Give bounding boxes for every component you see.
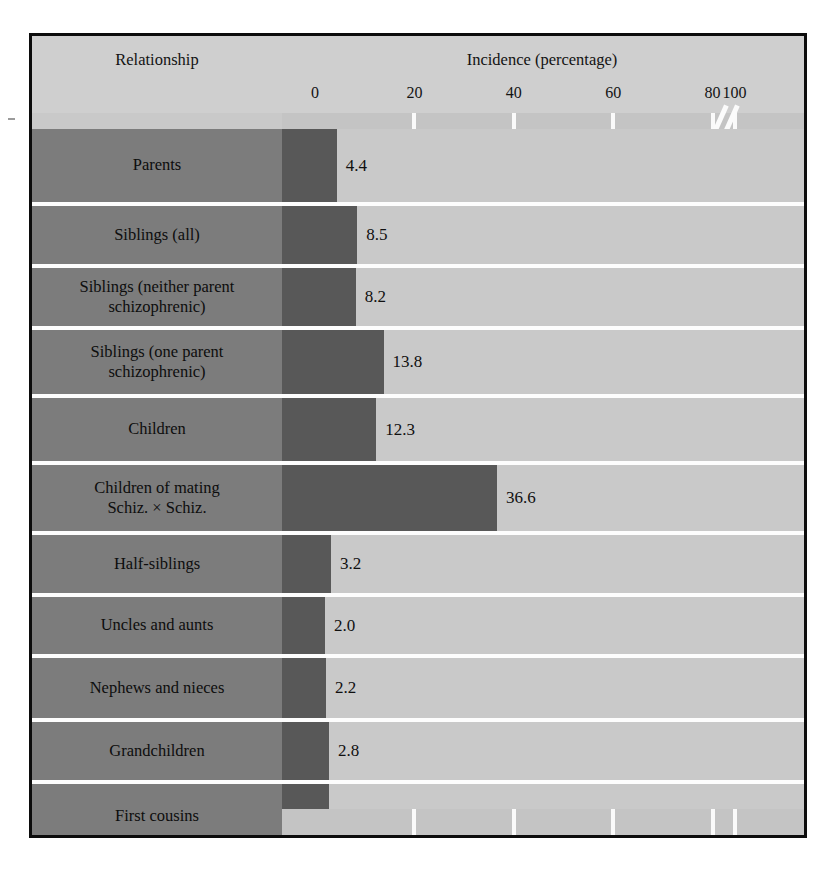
bottom-tick-band: [282, 809, 804, 835]
row-label-line: Nephews and nieces: [90, 678, 225, 698]
row-label-line: Children of mating: [94, 478, 220, 498]
x-tick-label-40: 40: [506, 84, 522, 102]
row-plot-area: 8.2: [282, 268, 804, 326]
incidence-axis-title: Incidence (percentage): [282, 50, 802, 70]
row-label-line: Schiz. × Schiz.: [94, 498, 220, 518]
row-label-5: Children of matingSchiz. × Schiz.: [32, 465, 282, 531]
row-plot-area: 2.2: [282, 658, 804, 718]
bar: [282, 398, 376, 461]
tick-mark-20: [412, 809, 416, 835]
bar: [282, 206, 357, 264]
chart-row: Siblings (neither parentschizophrenic)8.…: [32, 264, 804, 326]
row-label-line: schizophrenic): [91, 362, 224, 382]
x-tick-label-100: 100: [723, 84, 747, 102]
tick-mark-20: [412, 113, 416, 129]
row-plot-area: 8.5: [282, 206, 804, 264]
chart-row: Children of matingSchiz. × Schiz.36.6: [32, 461, 804, 531]
row-label-line: Uncles and aunts: [101, 615, 214, 635]
tick-mark-40: [512, 113, 516, 129]
row-plot-area: 2.0: [282, 597, 804, 654]
tick-mark-60: [611, 809, 615, 835]
row-label-line: Children: [128, 419, 186, 439]
bar-value-label: 2.0: [334, 616, 355, 636]
bar: [282, 658, 326, 718]
x-tick-label-0: 0: [311, 84, 319, 102]
row-label-line: Siblings (all): [114, 225, 200, 245]
row-label-8: Nephews and nieces: [32, 658, 282, 718]
bar: [282, 722, 329, 780]
bar-value-label: 2.8: [338, 741, 359, 761]
bar: [282, 535, 331, 593]
tick-mark-60: [611, 113, 615, 129]
bar: [282, 129, 337, 202]
row-plot-area: 2.8: [282, 722, 804, 780]
row-label-7: Uncles and aunts: [32, 597, 282, 654]
row-label-3: Siblings (one parentschizophrenic): [32, 330, 282, 394]
bar-value-label: 3.2: [340, 554, 361, 574]
row-label-10: First cousins: [32, 784, 282, 838]
bar-value-label: 4.4: [346, 156, 367, 176]
chart-row: Children12.3: [32, 394, 804, 461]
chart-row: Half-siblings3.2: [32, 531, 804, 593]
bar: [282, 597, 325, 654]
bar-value-label: 12.3: [385, 420, 415, 440]
row-label-line: First cousins: [115, 806, 199, 826]
bar-value-label: 36.6: [506, 488, 536, 508]
row-plot-area: 12.3: [282, 398, 804, 461]
bar-value-label: 8.5: [366, 225, 387, 245]
row-label-0: Parents: [32, 129, 282, 202]
row-label-line: schizophrenic): [80, 297, 235, 317]
bar: [282, 465, 497, 531]
chart-header: Relationship Incidence (percentage) 0204…: [32, 36, 804, 113]
relationship-column-title: Relationship: [32, 50, 282, 70]
row-label-line: Siblings (one parent: [91, 342, 224, 362]
row-label-line: Parents: [133, 155, 182, 175]
chart-row: Siblings (all)8.5: [32, 202, 804, 264]
row-label-line: Half-siblings: [114, 554, 200, 574]
tick-mark-40: [512, 809, 516, 835]
top-tick-band: [282, 113, 804, 129]
row-plot-area: 3.2: [282, 535, 804, 593]
incidence-bar-chart: Relationship Incidence (percentage) 0204…: [29, 33, 807, 838]
row-label-1: Siblings (all): [32, 206, 282, 264]
row-label-9: Grandchildren: [32, 722, 282, 780]
bar-value-label: 2.2: [335, 678, 356, 698]
x-tick-label-20: 20: [406, 84, 422, 102]
row-label-line: Siblings (neither parent: [80, 277, 235, 297]
x-tick-label-60: 60: [605, 84, 621, 102]
chart-row: Nephews and nieces2.2: [32, 654, 804, 718]
chart-row: Grandchildren2.8: [32, 718, 804, 780]
bar-value-label: 13.8: [393, 352, 423, 372]
chart-row: Siblings (one parentschizophrenic)13.8: [32, 326, 804, 394]
row-label-6: Half-siblings: [32, 535, 282, 593]
row-plot-area: 36.6: [282, 465, 804, 531]
bar: [282, 268, 356, 326]
tick-mark-100: [733, 809, 737, 835]
margin-tick-mark: [8, 118, 15, 120]
row-plot-area: 4.4: [282, 129, 804, 202]
chart-row: Parents4.4: [32, 129, 804, 202]
row-label-4: Children: [32, 398, 282, 461]
row-label-2: Siblings (neither parentschizophrenic): [32, 268, 282, 326]
x-tick-label-80: 80: [705, 84, 721, 102]
bar-value-label: 8.2: [365, 287, 386, 307]
chart-rows: Parents4.4Siblings (all)8.5Siblings (nei…: [32, 129, 804, 809]
tick-mark-80: [711, 809, 715, 835]
chart-row: Uncles and aunts2.0: [32, 593, 804, 654]
row-plot-area: 13.8: [282, 330, 804, 394]
bar: [282, 330, 384, 394]
row-label-line: Grandchildren: [109, 741, 204, 761]
